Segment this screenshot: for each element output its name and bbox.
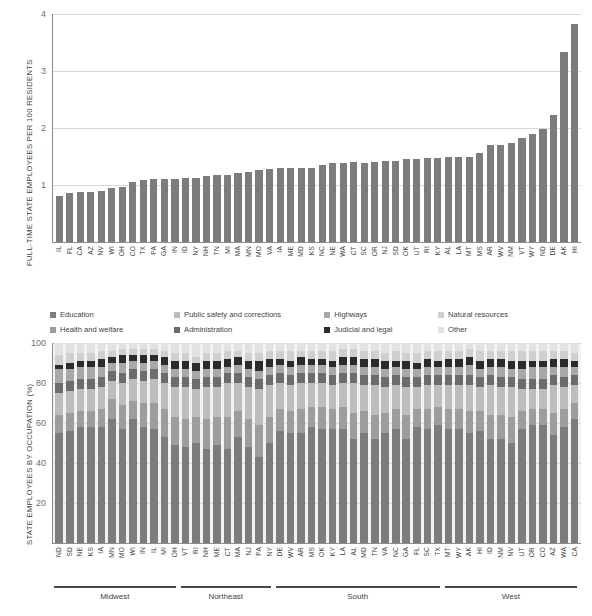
top-chart-y-tick: 4: [41, 9, 46, 19]
bottom-chart-bar-segment: [266, 375, 274, 385]
bottom-chart-x-label-cell: AZ: [547, 545, 558, 585]
region-label: South: [276, 592, 440, 601]
bottom-chart-bar-segment: [308, 383, 316, 407]
top-chart-bar: [518, 138, 525, 242]
bottom-chart-y-axis-ticks: 10080604020: [30, 343, 50, 543]
bottom-chart-bar-segment: [371, 385, 379, 415]
bottom-chart-bar-segment: [255, 343, 263, 353]
top-chart-bar: [539, 129, 546, 242]
bottom-chart-x-label: IL: [149, 547, 156, 553]
bottom-chart-bar-cell: [191, 343, 202, 543]
top-chart-x-label-cell: WI: [106, 244, 117, 288]
bottom-chart-x-label: AR: [297, 547, 304, 557]
bottom-chart-bar-segment: [287, 375, 295, 385]
bottom-chart-bar-segment: [424, 429, 432, 543]
top-chart-bar: [497, 145, 504, 242]
bottom-chart-x-label-cell: NH: [200, 545, 211, 585]
bottom-chart-stacked-bar: [497, 343, 505, 543]
top-chart-x-label-cell: SD: [390, 244, 401, 288]
bottom-chart-bar-segment: [276, 383, 284, 409]
bottom-chart-bar-segment: [203, 353, 211, 361]
bottom-chart-bar-segment: [245, 377, 253, 387]
top-chart-x-label: CO: [128, 246, 135, 256]
bottom-chart-bar-segment: [560, 351, 568, 359]
top-chart-x-label: HI: [570, 246, 577, 253]
top-chart-x-label: UT: [412, 246, 419, 255]
bottom-chart-x-label-cell: MO: [116, 545, 127, 585]
bottom-chart-bar-segment: [339, 357, 347, 365]
bottom-chart-stacked-bar: [571, 343, 579, 543]
bottom-chart-x-label-cell: SC: [421, 545, 432, 585]
top-chart-x-label: NC: [318, 246, 325, 256]
bottom-chart-bar-segment: [550, 413, 558, 435]
bottom-chart-stacked-bar: [339, 343, 347, 543]
bottom-chart-bar-segment: [77, 379, 85, 389]
bottom-chart-bar-cell: [327, 343, 338, 543]
bottom-chart-x-label: MA: [234, 547, 241, 557]
bottom-chart-stacked-bar: [171, 343, 179, 543]
bottom-chart-bar-segment: [318, 373, 326, 383]
bottom-chart-bar-segment: [77, 427, 85, 543]
top-chart-x-label-cell: IA: [274, 244, 285, 288]
bottom-chart-stacked-bar: [245, 343, 253, 543]
bottom-chart-bar-cell: [317, 343, 328, 543]
bottom-chart-x-label: MI: [160, 547, 167, 555]
legend-item-label: Highways: [334, 310, 367, 319]
bottom-chart-bar-segment: [508, 343, 516, 351]
top-chart-x-label: RI: [423, 246, 430, 253]
bottom-chart-bar-segment: [182, 377, 190, 387]
top-chart-bar: [445, 157, 452, 243]
bottom-chart-bar-segment: [266, 385, 274, 417]
bottom-chart-bar-segment: [497, 351, 505, 359]
bottom-chart-bar-segment: [234, 383, 242, 411]
bottom-chart-bar-segment: [150, 361, 158, 369]
bottom-chart-bar-cell: [369, 343, 380, 543]
bottom-chart-stacked-bar: [297, 343, 305, 543]
bottom-chart-bar-cell: [559, 343, 570, 543]
bottom-chart-stacked-bar: [192, 343, 200, 543]
bottom-chart-bar-segment: [161, 373, 169, 383]
bottom-chart-x-label: AL: [349, 547, 356, 555]
bottom-chart-bar-segment: [455, 429, 463, 543]
top-chart-bar-cell: [338, 14, 349, 242]
top-chart-y-axis-ticks: 4321: [30, 10, 50, 242]
bottom-chart-x-label: WV: [286, 547, 293, 558]
top-chart-bar: [361, 163, 368, 242]
legend-item-label: Public safety and corrections: [184, 310, 281, 319]
top-chart-bar: [476, 153, 483, 242]
bottom-chart-bar-cell: [306, 343, 317, 543]
bottom-chart-bar-segment: [287, 411, 295, 433]
bottom-chart-bar-segment: [529, 409, 537, 425]
bottom-chart-bar-cell: [380, 343, 391, 543]
bottom-chart-bar-segment: [55, 433, 63, 543]
bottom-chart-bar-segment: [308, 343, 316, 351]
region-group: Midwest: [54, 586, 176, 601]
top-chart-bar: [119, 187, 126, 242]
bottom-chart-bar-cell: [128, 343, 139, 543]
bottom-chart-bar-segment: [129, 379, 137, 401]
bottom-chart-stacked-bar: [234, 343, 242, 543]
top-chart-y-tick: 3: [41, 66, 46, 76]
top-chart-bar: [571, 24, 578, 242]
bottom-chart-bar-segment: [140, 381, 148, 403]
top-chart-x-label: MS: [475, 246, 482, 256]
bottom-chart-bar-segment: [497, 359, 505, 367]
bottom-chart-stacked-bar: [445, 343, 453, 543]
bottom-chart-bar-segment: [55, 343, 63, 355]
bottom-chart-stacked-bar: [329, 343, 337, 543]
top-chart-x-label-cell: MD: [295, 244, 306, 288]
bottom-chart-bar-cell: [275, 343, 286, 543]
bottom-chart-bar-segment: [192, 371, 200, 379]
top-chart-x-label-cell: GA: [158, 244, 169, 288]
bottom-chart-bar-segment: [518, 379, 526, 389]
bottom-chart-x-label-cell: MN: [106, 545, 117, 585]
top-chart-bar-cell: [275, 14, 286, 242]
bottom-chart-bar-segment: [171, 377, 179, 387]
bottom-chart-x-label-cell: NE: [74, 545, 85, 585]
bottom-chart-x-label: NY: [265, 547, 272, 557]
top-chart-bar-cell: [243, 14, 254, 242]
top-chart-x-label: IA: [276, 246, 283, 253]
bottom-chart-x-label: MN: [107, 547, 114, 558]
top-chart-bar: [371, 162, 378, 242]
bottom-chart-bar-segment: [287, 433, 295, 543]
